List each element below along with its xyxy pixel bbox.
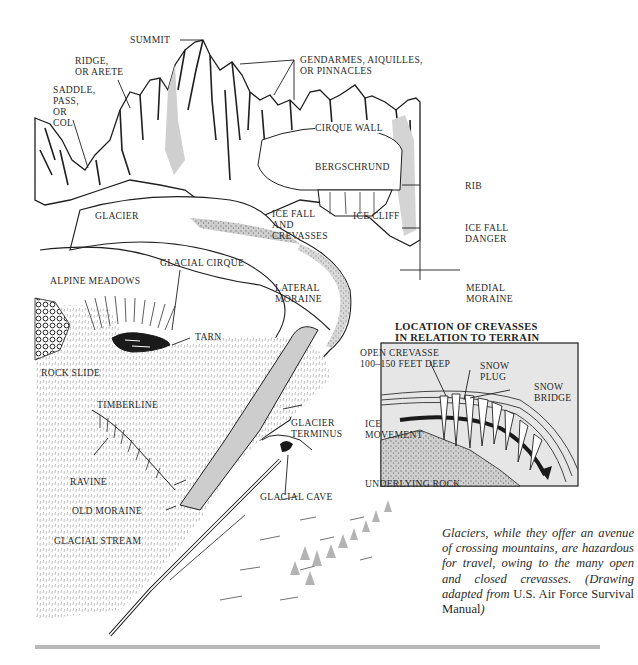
label-cirque-wall: CIRQUE WALL (315, 122, 383, 133)
label-ice-fall-danger: ICE FALL DANGER (465, 222, 509, 244)
label-ice-cliff: ICE CLIFF (353, 210, 400, 221)
horizontal-rule (35, 645, 600, 649)
figure-caption: Glaciers, while they offer an avenue of … (442, 526, 634, 617)
label-glacier: GLACIER (95, 210, 139, 221)
label-ice-fall-crevasses: ICE FALL AND CREVASSES (272, 208, 328, 241)
label-gendarmes: GENDARMES, AIQUILLES, OR PINNACLES (300, 54, 423, 76)
glacier-diagram: SUMMIT RIDGE, OR ARETE SADDLE, PASS, OR … (0, 0, 638, 665)
label-snow-bridge: SNOW BRIDGE (534, 381, 572, 403)
label-ridge-arete: RIDGE, OR ARETE (75, 55, 124, 77)
label-old-moraine: OLD MORAINE (72, 505, 142, 516)
label-tarn: TARN (195, 331, 222, 342)
caption-close: ) (480, 602, 484, 616)
label-rock-slide: ROCK SLIDE (41, 367, 100, 378)
label-alpine-meadows: ALPINE MEADOWS (50, 275, 140, 286)
label-rib: RIB (465, 180, 482, 191)
conifer-trees (290, 500, 392, 585)
label-open-crevasse: OPEN CREVASSE 100–150 FEET DEEP (360, 347, 450, 369)
label-medial-moraine: MEDIAL MORAINE (466, 282, 513, 304)
label-timberline: TIMBERLINE (97, 399, 158, 410)
label-glacial-cave: GLACIAL CAVE (260, 491, 333, 502)
label-glacial-cirque: GLACIAL CIRQUE (160, 257, 244, 268)
label-ice-movement: ICE MOVEMENT (365, 418, 423, 440)
label-glacial-stream: GLACIAL STREAM (54, 535, 141, 546)
label-snow-plug: SNOW PLUG (480, 360, 509, 382)
label-glacier-terminus: GLACIER TERMINUS (291, 417, 342, 439)
inset-title: LOCATION OF CREVASSES IN RELATION TO TER… (395, 321, 539, 343)
label-ravine: RAVINE (70, 476, 107, 487)
label-lateral-moraine: LATERAL MORAINE (275, 282, 322, 304)
label-underlying-rock: UNDERLYING ROCK (365, 478, 460, 489)
label-summit: SUMMIT (130, 34, 170, 45)
label-saddle-pass-col: SADDLE, PASS, OR COL (53, 84, 95, 128)
label-bergschrund: BERGSCHRUND (315, 161, 390, 172)
